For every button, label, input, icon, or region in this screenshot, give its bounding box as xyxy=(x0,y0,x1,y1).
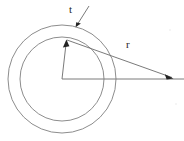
thickness-label: t xyxy=(69,3,72,15)
radius-label: r xyxy=(126,38,130,50)
ring-cross-section-diagram: t r xyxy=(0,0,184,141)
radius-dimension-line xyxy=(67,40,172,78)
center-radius-line xyxy=(62,44,66,79)
diagram-canvas: t r xyxy=(0,0,184,141)
scan-speck xyxy=(175,103,176,104)
scan-speck xyxy=(169,29,170,30)
thickness-arrowhead-icon xyxy=(76,22,81,27)
thickness-leader-line xyxy=(77,6,89,25)
